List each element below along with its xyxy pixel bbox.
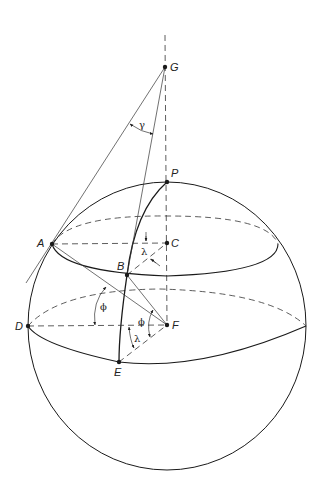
line-BF <box>127 275 167 325</box>
label-G: G <box>170 61 179 73</box>
label-lambda-bottom: λ <box>134 333 141 344</box>
lambda-top-arc <box>146 236 156 263</box>
point-C <box>165 241 169 245</box>
point-E <box>117 360 121 364</box>
line-AC <box>52 243 167 244</box>
line-GB <box>127 67 165 275</box>
sphere-geometry-diagram: G P A C B D F E γ λ ϕ ϕ λ <box>0 0 326 493</box>
point-D <box>26 324 30 328</box>
label-C: C <box>171 237 179 249</box>
label-gamma: γ <box>139 119 145 130</box>
label-phi-left: ϕ <box>100 301 107 312</box>
latitude-circle-front <box>52 244 278 276</box>
label-B: B <box>117 260 124 272</box>
label-lambda-top: λ <box>141 246 148 257</box>
point-F <box>165 323 169 327</box>
label-P: P <box>171 167 179 179</box>
phi-center-arc <box>149 310 153 337</box>
label-D: D <box>15 320 23 332</box>
point-B <box>125 273 129 277</box>
label-F: F <box>172 319 180 331</box>
point-A <box>50 242 54 246</box>
equator-front <box>28 326 306 364</box>
point-P <box>165 180 169 184</box>
latitude-circle-back <box>52 216 278 244</box>
line-EF <box>119 325 167 362</box>
meridian-PBE <box>119 182 167 362</box>
label-A: A <box>36 237 44 249</box>
label-E: E <box>114 366 122 378</box>
point-G <box>163 65 167 69</box>
line-DF <box>28 325 167 326</box>
line-AF <box>52 244 167 325</box>
label-phi-center: ϕ <box>138 316 145 327</box>
lambda-top-arrow2 <box>151 259 160 266</box>
